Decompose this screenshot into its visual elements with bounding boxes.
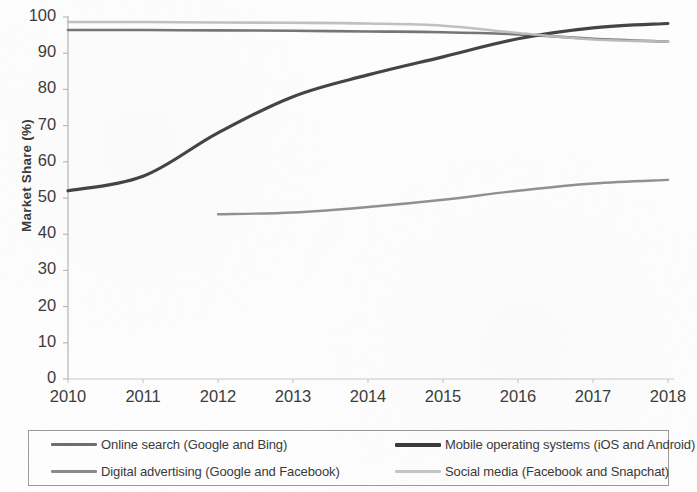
legend-color-swatch (51, 443, 97, 446)
x-tick-label: 2013 (258, 387, 328, 406)
legend-color-swatch (51, 470, 97, 473)
y-tick-label: 10 (10, 332, 56, 351)
chart-legend: Online search (Google and Bing)Mobile op… (28, 430, 669, 486)
legend-label: Digital advertising (Google and Facebook… (101, 464, 340, 479)
y-tick-label: 80 (10, 78, 56, 97)
x-tick-label: 2010 (33, 387, 103, 406)
legend-item: Digital advertising (Google and Facebook… (29, 464, 381, 479)
x-tick-label: 2014 (333, 387, 403, 406)
legend-label: Mobile operating systems (iOS and Androi… (445, 437, 695, 452)
x-tick-label: 2017 (558, 387, 628, 406)
legend-label: Online search (Google and Bing) (101, 437, 287, 452)
y-tick-label: 60 (10, 151, 56, 170)
y-tick-label: 50 (10, 187, 56, 206)
series-line-2 (218, 180, 668, 214)
y-tick-label: 100 (10, 6, 56, 25)
series-line-0 (68, 30, 668, 42)
legend-color-swatch (395, 443, 441, 447)
legend-item: Online search (Google and Bing) (29, 437, 381, 452)
y-tick-label: 40 (10, 223, 56, 242)
x-tick-label: 2012 (183, 387, 253, 406)
x-tick-label: 2018 (633, 387, 697, 406)
y-tick-label: 90 (10, 42, 56, 61)
y-tick-label: 0 (10, 368, 56, 387)
legend-label: Social media (Facebook and Snapchat) (445, 464, 669, 479)
legend-item: Social media (Facebook and Snapchat) (381, 464, 670, 479)
line-chart-figure: Market Share (%) 0102030405060708090100 … (0, 0, 697, 492)
series-line-1 (68, 24, 668, 191)
x-tick-label: 2016 (483, 387, 553, 406)
legend-item: Mobile operating systems (iOS and Androi… (381, 437, 670, 452)
y-tick-label: 70 (10, 115, 56, 134)
y-tick-label: 20 (10, 296, 56, 315)
chart-plot-svg (0, 0, 697, 420)
legend-color-swatch (395, 470, 441, 473)
plot-area: Market Share (%) 0102030405060708090100 … (0, 0, 697, 420)
y-tick-label: 30 (10, 259, 56, 278)
x-tick-label: 2015 (408, 387, 478, 406)
x-tick-label: 2011 (108, 387, 178, 406)
